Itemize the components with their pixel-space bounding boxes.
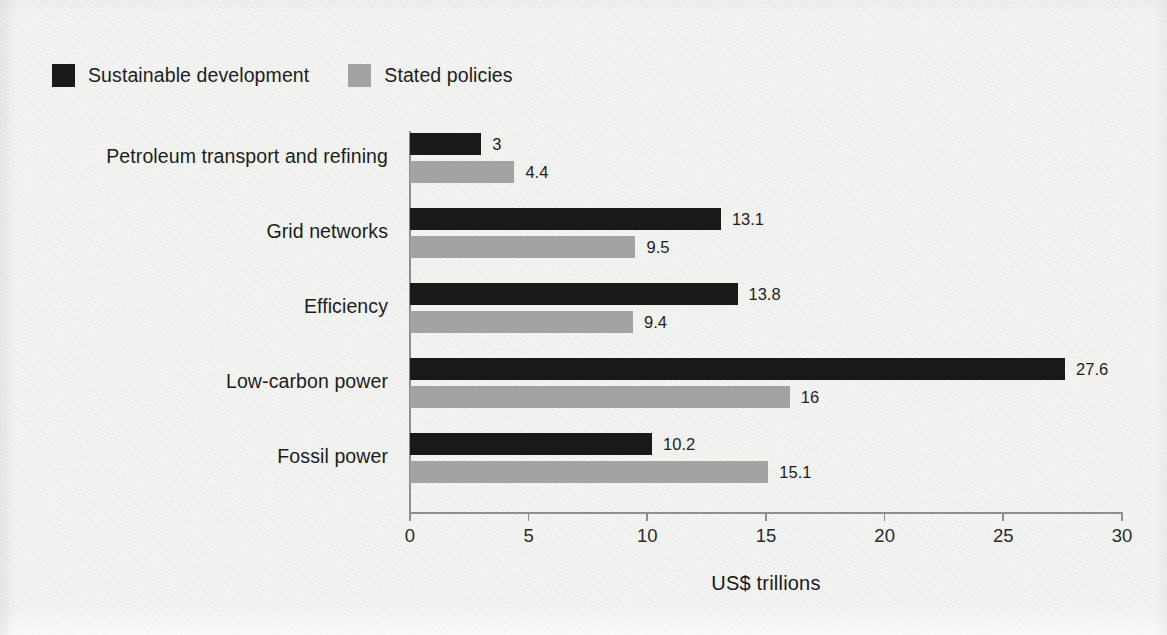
bar-stated-policies bbox=[410, 461, 768, 483]
category-label: Grid networks bbox=[266, 220, 388, 243]
bar-sustainable-development bbox=[410, 208, 721, 230]
x-axis-tick-label: 25 bbox=[993, 525, 1014, 547]
x-axis-tick-label: 0 bbox=[405, 525, 415, 547]
x-axis-tick-label: 10 bbox=[637, 525, 658, 547]
bar-value-label: 4.4 bbox=[525, 161, 548, 183]
x-axis-tick bbox=[765, 512, 767, 521]
category-label: Petroleum transport and refining bbox=[106, 145, 388, 168]
x-axis-tick bbox=[1121, 512, 1123, 521]
bar-stated-policies bbox=[410, 311, 633, 333]
bar-sustainable-development bbox=[410, 433, 652, 455]
legend-entry-sustainable-development: Sustainable development bbox=[52, 64, 309, 87]
bar-sustainable-development bbox=[410, 133, 481, 155]
chart-legend: Sustainable development Stated policies bbox=[52, 64, 513, 87]
bar-sustainable-development bbox=[410, 358, 1065, 380]
x-axis-tick-label: 30 bbox=[1112, 525, 1133, 547]
legend-label-sustainable-development: Sustainable development bbox=[88, 64, 309, 87]
bar-sustainable-development bbox=[410, 283, 738, 305]
bar-value-label: 15.1 bbox=[779, 461, 811, 483]
bar-value-label: 9.5 bbox=[646, 236, 669, 258]
x-axis-tick-label: 20 bbox=[874, 525, 895, 547]
x-axis-tick-label: 15 bbox=[756, 525, 777, 547]
legend-swatch-stated-policies bbox=[348, 64, 371, 87]
chart-page: Sustainable development Stated policies … bbox=[0, 0, 1167, 635]
x-axis-title: US$ trillions bbox=[410, 572, 1122, 595]
x-axis-tick bbox=[884, 512, 886, 521]
bar-stated-policies bbox=[410, 386, 790, 408]
category-label: Efficiency bbox=[304, 295, 388, 318]
legend-swatch-sustainable-development bbox=[52, 64, 75, 87]
legend-entry-stated-policies: Stated policies bbox=[348, 64, 512, 87]
x-axis-tick bbox=[409, 512, 411, 521]
bar-value-label: 9.4 bbox=[644, 311, 667, 333]
bar-stated-policies bbox=[410, 161, 514, 183]
category-axis-labels: Petroleum transport and refiningGrid net… bbox=[0, 131, 400, 512]
x-axis-tick-label: 5 bbox=[524, 525, 534, 547]
bar-value-label: 3 bbox=[492, 133, 501, 155]
bar-value-label: 13.8 bbox=[749, 283, 781, 305]
bar-value-label: 27.6 bbox=[1076, 358, 1108, 380]
category-label: Low-carbon power bbox=[226, 370, 388, 393]
legend-label-stated-policies: Stated policies bbox=[384, 64, 512, 87]
category-label: Fossil power bbox=[277, 445, 388, 468]
plot-area: 05101520253034.413.19.513.89.427.61610.2… bbox=[410, 131, 1122, 512]
bar-stated-policies bbox=[410, 236, 635, 258]
x-axis-tick bbox=[528, 512, 530, 521]
bar-value-label: 13.1 bbox=[732, 208, 764, 230]
bar-value-label: 10.2 bbox=[663, 433, 695, 455]
x-axis-tick bbox=[646, 512, 648, 521]
x-axis-tick bbox=[1002, 512, 1004, 521]
bar-value-label: 16 bbox=[801, 386, 819, 408]
